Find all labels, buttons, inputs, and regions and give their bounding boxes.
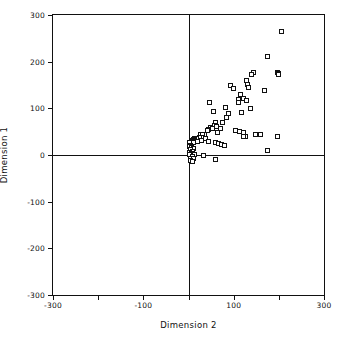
y-axis-tick-label: 0 [40, 151, 45, 160]
x-axis-tick-label: 100 [226, 301, 241, 310]
x-axis-title: Dimension 2 [52, 320, 325, 330]
data-point [265, 54, 270, 59]
data-point [195, 139, 200, 144]
data-point [206, 139, 211, 144]
data-point [201, 153, 206, 158]
data-point [236, 100, 241, 105]
x-axis-tick-label: -300 [44, 301, 62, 310]
data-point [215, 130, 220, 135]
data-point [241, 134, 246, 139]
data-point [249, 72, 254, 77]
data-point [246, 85, 251, 90]
y-axis-tick-label: -300 [27, 291, 45, 300]
y-axis-tick [48, 248, 53, 249]
x-axis-tick [234, 295, 235, 300]
data-point [248, 106, 253, 111]
y-axis-tick-label: 300 [30, 11, 45, 20]
y-axis-tick-label: 100 [30, 104, 45, 113]
data-point [231, 86, 236, 91]
y-axis-tick [48, 15, 53, 16]
x-axis-tick [189, 295, 190, 300]
data-point [220, 120, 225, 125]
data-point [213, 157, 218, 162]
scatter-plot-figure: -300-200-1000100200300-300-100100300 Dim… [0, 0, 347, 341]
plot-frame: -300-200-1000100200300-300-100100300 [52, 14, 325, 296]
y-axis-tick [48, 108, 53, 109]
data-point [276, 72, 281, 77]
data-point [275, 134, 280, 139]
data-point [262, 88, 267, 93]
x-axis-tick [53, 295, 54, 300]
data-point [207, 100, 212, 105]
plot-area [53, 15, 324, 295]
data-point [244, 98, 249, 103]
x-axis-tick [324, 295, 325, 300]
y-axis-tick [48, 62, 53, 63]
x-axis-tick [143, 295, 144, 300]
data-point [279, 29, 284, 34]
data-point [211, 109, 216, 114]
y-axis-tick-label: 200 [30, 57, 45, 66]
data-point [258, 132, 263, 137]
y-axis-tick-label: -200 [27, 244, 45, 253]
y-axis-tick [48, 155, 53, 156]
x-axis-tick [98, 295, 99, 300]
x-axis-tick-label: 300 [317, 301, 332, 310]
data-point [239, 110, 244, 115]
x-axis-tick [279, 295, 280, 300]
data-point [222, 143, 227, 148]
data-point [265, 148, 270, 153]
y-axis-tick-label: -100 [27, 197, 45, 206]
data-point [190, 159, 195, 164]
y-axis-tick [48, 202, 53, 203]
data-point [223, 105, 228, 110]
y-axis-title: Dimension 1 [0, 127, 9, 184]
x-axis-tick-label: -100 [134, 301, 152, 310]
